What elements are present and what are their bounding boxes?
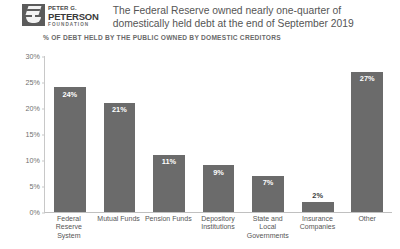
bar-value-label: 7% bbox=[252, 178, 284, 187]
bar-slot: 7% bbox=[243, 56, 293, 212]
bar-slot: 9% bbox=[194, 56, 244, 212]
x-axis-labels: Federal Reserve SystemMutual FundsPensio… bbox=[44, 215, 392, 240]
bar-chart: 24%21%11%9%7%2%27% 30%25%20%15%10%5%0% F… bbox=[0, 48, 400, 249]
bar-slot: 2% bbox=[293, 56, 343, 212]
logo-line-peterson: PETERSON bbox=[48, 12, 99, 22]
y-axis-tick: 30% bbox=[26, 52, 45, 61]
bar-value-label: 11% bbox=[153, 157, 185, 166]
bar-value-label: 21% bbox=[104, 105, 136, 114]
bar[interactable]: 21% bbox=[104, 103, 136, 212]
bar[interactable]: 11% bbox=[153, 155, 185, 212]
page-title: The Federal Reserve owned nearly one-qua… bbox=[113, 4, 383, 30]
logo-wordmark: PETER G. PETERSON FOUNDATION bbox=[48, 4, 99, 28]
bar-slot: 27% bbox=[342, 56, 392, 212]
bar-value-label: 24% bbox=[54, 90, 86, 99]
y-axis-tick: 0% bbox=[30, 208, 45, 217]
x-axis-label: State and Local Governments bbox=[243, 215, 293, 240]
y-axis-tick: 25% bbox=[26, 78, 45, 87]
logo-line-foundation: FOUNDATION bbox=[48, 23, 99, 28]
y-axis-tick: 20% bbox=[26, 104, 45, 113]
x-axis-label: Pension Funds bbox=[143, 215, 193, 240]
bar-slot: 11% bbox=[144, 56, 194, 212]
chart-header: PETER G. PETERSON FOUNDATION The Federal… bbox=[0, 0, 400, 30]
bar-value-label: 27% bbox=[351, 74, 383, 83]
y-axis-tick: 15% bbox=[26, 130, 45, 139]
y-axis-tick: 5% bbox=[30, 182, 45, 191]
bar[interactable]: 2% bbox=[302, 202, 334, 212]
bar[interactable]: 27% bbox=[351, 72, 383, 212]
bar-slot: 21% bbox=[95, 56, 145, 212]
bar[interactable]: 7% bbox=[252, 176, 284, 212]
peterson-foundation-logo: PETER G. PETERSON FOUNDATION bbox=[22, 4, 99, 28]
x-axis-label: Mutual Funds bbox=[94, 215, 144, 240]
bar[interactable]: 24% bbox=[54, 87, 86, 212]
chart-subtitle: % OF DEBT HELD BY THE PUBLIC OWNED BY DO… bbox=[43, 34, 281, 41]
bar[interactable]: 9% bbox=[203, 165, 235, 212]
y-axis-tick: 10% bbox=[26, 156, 45, 165]
x-axis-label: Federal Reserve System bbox=[44, 215, 94, 240]
x-axis-label: Depository Institutions bbox=[193, 215, 243, 240]
x-axis-label: Other bbox=[342, 215, 392, 240]
bar-series: 24%21%11%9%7%2%27% bbox=[45, 56, 392, 212]
peterson-foundation-torch-icon bbox=[22, 4, 45, 26]
x-axis-label: Insurance Companies bbox=[293, 215, 343, 240]
bar-value-label: 9% bbox=[203, 168, 235, 177]
bar-value-label: 2% bbox=[302, 191, 334, 200]
bar-slot: 24% bbox=[45, 56, 95, 212]
plot-area: 24%21%11%9%7%2%27% 30%25%20%15%10%5%0% bbox=[44, 56, 392, 213]
